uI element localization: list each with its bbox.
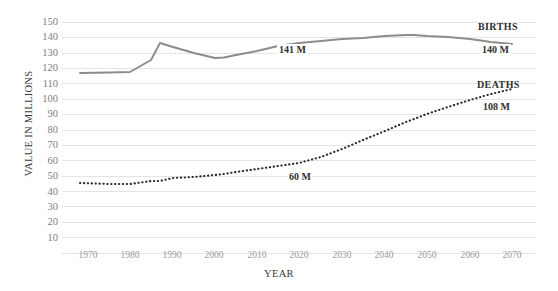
series-label-births: BIRTHS bbox=[478, 21, 518, 32]
series-line-deaths bbox=[80, 89, 512, 184]
value-label-births-end: 140 M bbox=[480, 44, 511, 55]
x-tick-2070: 2070 bbox=[490, 250, 534, 261]
y-tick-10: 10 bbox=[24, 232, 58, 243]
x-tick-1980: 1980 bbox=[108, 250, 152, 261]
x-tick-2060: 2060 bbox=[448, 250, 492, 261]
x-axis-title: YEAR bbox=[0, 268, 558, 279]
y-axis-title: VALUE IN MILLIONS bbox=[23, 49, 34, 199]
y-tick-30: 30 bbox=[24, 201, 58, 212]
y-tick-150: 150 bbox=[24, 16, 58, 27]
x-tick-2010: 2010 bbox=[235, 250, 279, 261]
x-tick-2020: 2020 bbox=[277, 250, 321, 261]
value-label-deaths-mid: 60 M bbox=[287, 171, 313, 182]
value-label-births-mid: 141 M bbox=[277, 44, 308, 55]
x-tick-2000: 2000 bbox=[192, 250, 236, 261]
x-tick-1990: 1990 bbox=[150, 250, 194, 261]
y-tick-140: 140 bbox=[24, 31, 58, 42]
value-label-deaths-end: 108 M bbox=[481, 101, 512, 112]
series-label-deaths: DEATHS bbox=[477, 79, 520, 90]
x-tick-1970: 1970 bbox=[66, 250, 110, 261]
x-tick-2050: 2050 bbox=[405, 250, 449, 261]
x-tick-2040: 2040 bbox=[362, 250, 406, 261]
x-tick-2030: 2030 bbox=[320, 250, 364, 261]
y-tick-20: 20 bbox=[24, 216, 58, 227]
gridlines bbox=[62, 22, 536, 253]
chart-container: 150 140 130 120 110 100 90 80 70 60 50 4… bbox=[0, 0, 558, 291]
